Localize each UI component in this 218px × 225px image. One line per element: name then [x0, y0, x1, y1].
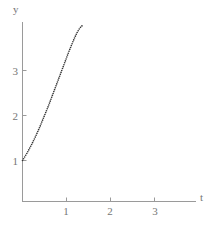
y-axis-tick-marks	[23, 71, 27, 161]
x-axis-label: t	[200, 192, 203, 203]
data-series-dots	[22, 25, 83, 161]
y-tick-label-2: 2	[4, 111, 18, 122]
x-tick-label-1: 1	[63, 206, 69, 217]
plot-graphics	[0, 0, 218, 225]
y-tick-label-1: 1	[4, 156, 18, 167]
plot-canvas: 1 2 3 1 2 3 t y	[0, 0, 218, 225]
x-axis-tick-marks	[67, 198, 155, 202]
x-tick-label-3: 3	[152, 206, 158, 217]
y-tick-label-3: 3	[4, 66, 18, 77]
x-tick-label-2: 2	[107, 206, 113, 217]
y-axis-label: y	[13, 4, 19, 15]
